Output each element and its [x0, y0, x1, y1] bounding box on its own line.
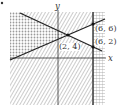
bullet-marker: [1, 2, 3, 4]
point-label-6-2: (6, 2): [95, 38, 117, 46]
inequality-graph: y x (2, 4) (6, 6) (6, 2): [0, 0, 129, 108]
x-axis-label: x: [108, 54, 113, 63]
point-2-4: [66, 33, 69, 36]
y-axis-label: y: [55, 2, 60, 11]
point-label-2-4: (2, 4): [59, 43, 81, 51]
point-label-6-6: (6, 6): [95, 25, 117, 33]
